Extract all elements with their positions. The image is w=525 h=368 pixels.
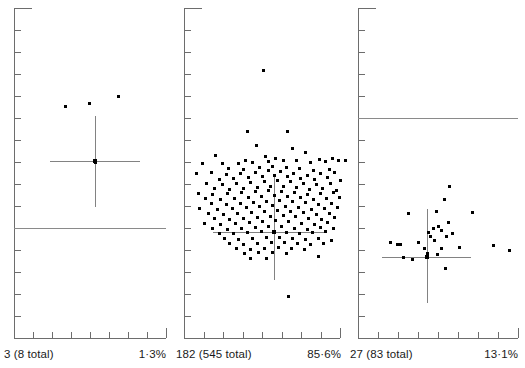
panel-3-data-point — [432, 227, 435, 230]
panel-2-x-axis — [184, 338, 340, 339]
panel-2-data-point — [243, 252, 246, 255]
panel-2-data-point — [210, 202, 213, 205]
panel-2-data-point — [242, 187, 245, 190]
panel-3-data-point — [437, 225, 440, 228]
panel-2-data-point — [263, 247, 266, 250]
panel-2-data-point — [221, 162, 224, 165]
panel-2-data-point — [312, 169, 315, 172]
panel-2-data-point — [333, 216, 336, 219]
panel-2-y-tick — [185, 30, 191, 31]
panel-2-data-point — [274, 219, 277, 222]
panel-2-data-point — [312, 198, 315, 201]
panel-2-x-tick — [301, 332, 302, 338]
panel-2-y-tick — [185, 206, 191, 207]
panel-2-data-point — [245, 206, 248, 209]
panel-2-data-point — [213, 187, 216, 190]
panel-3-data-point — [407, 212, 410, 215]
panel-2-y-tick — [185, 118, 191, 119]
panel-2-data-point — [302, 211, 305, 214]
panel-2-data-point — [291, 147, 294, 150]
panel-2-data-point — [339, 179, 342, 182]
panel-2-x-tick — [184, 328, 185, 338]
panel-2-data-point — [309, 243, 312, 246]
panel-2-crosshair-vertical — [274, 176, 275, 280]
panel-3-y-tick — [359, 272, 365, 273]
panel-2-data-point — [269, 185, 272, 188]
panel-2-data-point — [271, 251, 274, 254]
panel-2-data-point — [321, 187, 324, 190]
panel-2-data-point — [246, 231, 249, 234]
panel-3-data-point — [433, 239, 436, 242]
panel-2-x-tick — [321, 332, 322, 338]
panel-2-data-point — [317, 237, 320, 240]
panel-2-data-point — [286, 130, 289, 133]
panel-3-y-tick — [359, 96, 365, 97]
panel-2-data-point — [214, 154, 217, 157]
panel-2-data-point — [294, 215, 297, 218]
panel-2-data-point — [237, 162, 240, 165]
panel-2-data-point — [287, 220, 290, 223]
panel-2-data-point — [222, 213, 225, 216]
panel-3-data-point — [447, 221, 450, 224]
panel-2-data-point — [248, 221, 251, 224]
panel-2-data-point — [285, 166, 288, 169]
panel-2-data-point — [285, 252, 288, 255]
panel-1-crosshair-center — [93, 159, 97, 163]
panel-2-data-point — [256, 242, 259, 245]
panel-2-data-point — [232, 232, 235, 235]
panel-2-data-point — [255, 144, 258, 147]
panel-2-data-point — [258, 205, 261, 208]
panel-2-data-point — [290, 247, 293, 250]
panel-2-data-point — [277, 246, 280, 249]
panel-2-data-point — [240, 227, 243, 230]
panel-2-data-point — [267, 160, 270, 163]
panel-2-data-point — [213, 217, 216, 220]
panel-2-data-point — [280, 190, 283, 193]
panel-2-data-point — [323, 207, 326, 210]
panel-3-y-axis — [358, 8, 359, 338]
panel-2-data-point — [282, 185, 285, 188]
panel-2-data-point — [233, 197, 236, 200]
panel-2-data-point — [227, 167, 230, 170]
panel-3-x-tick — [518, 328, 519, 338]
panel-2-data-point — [234, 222, 237, 225]
panel-2-data-point — [295, 159, 298, 162]
panel-2-data-point — [338, 196, 341, 199]
panel-3-data-point — [427, 231, 430, 234]
panel-2-data-point — [330, 239, 333, 242]
panel-2-y-tick — [185, 184, 191, 185]
panel-2-y-tick — [185, 316, 191, 317]
panel-2-data-point — [317, 255, 320, 258]
panel-1-y-tick — [15, 184, 21, 185]
panel-2-data-point — [246, 130, 249, 133]
panel-3-x-tick — [378, 332, 379, 338]
panel-3-data-point — [448, 185, 451, 188]
panel-2-data-point — [298, 167, 301, 170]
panel-2-data-point — [267, 169, 270, 172]
panel-2-data-point — [218, 178, 221, 181]
panel-2-data-point — [304, 201, 307, 204]
panel-2-data-point — [223, 237, 226, 240]
panel-2-data-point — [254, 190, 257, 193]
panel-3-data-point — [440, 247, 443, 250]
panel-2-data-point — [260, 195, 263, 198]
panel-2-data-point — [332, 191, 335, 194]
panel-2-data-point — [221, 183, 224, 186]
panel-1-reference-line — [14, 228, 166, 229]
panel-2-data-point — [326, 176, 329, 179]
panel-2-data-point — [331, 157, 334, 160]
panel-2-data-point — [320, 218, 323, 221]
panel-2-data-point — [263, 210, 266, 213]
panel-2-data-point — [300, 222, 303, 225]
panel-2-data-point — [249, 257, 252, 260]
panel-3-y-tick — [359, 316, 365, 317]
panel-2-data-point — [242, 217, 245, 220]
panel-2-data-point — [279, 170, 282, 173]
panel-1-data-point — [88, 102, 91, 105]
panel-2-data-point — [273, 194, 276, 197]
panel-3-data-point — [458, 246, 461, 249]
panel-3-x-tick — [438, 332, 439, 338]
panel-3-data-point — [423, 247, 426, 250]
panel-2-data-point — [324, 230, 327, 233]
panel-2-y-tick — [185, 250, 191, 251]
